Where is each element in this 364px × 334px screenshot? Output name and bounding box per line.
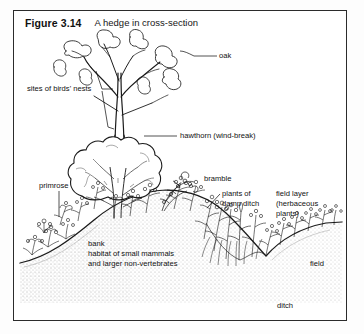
- label-hawthorn: hawthorn (wind-break): [180, 131, 256, 141]
- label-oak: oak: [219, 51, 231, 61]
- figure-root: Figure 3.14 A hedge in cross-section: [0, 0, 364, 334]
- label-field: field: [310, 259, 324, 269]
- label-bank-line1: bank: [88, 239, 104, 249]
- hedge-cross-section-drawing: [14, 11, 348, 322]
- leader-birds-nests-b: [102, 91, 114, 129]
- figure-frame: Figure 3.14 A hedge in cross-section: [13, 10, 347, 321]
- label-birds-nests: sites of birds' nests: [27, 84, 91, 94]
- label-primrose: primrose: [39, 181, 69, 191]
- leader-birds-nests-c: [96, 71, 102, 89]
- label-bramble: bramble: [204, 174, 231, 184]
- label-ditch: ditch: [277, 301, 293, 311]
- label-bank-line2: habitat of small mammals: [88, 249, 174, 259]
- label-field-layer-line3: plants): [276, 209, 299, 219]
- label-damp-ditch-line1: plants of: [222, 189, 251, 199]
- label-field-layer-line2: (herbaceous: [276, 199, 318, 209]
- label-damp-ditch-line2: damp ditch: [222, 199, 259, 209]
- label-bank-line3: and larger non-vertebrates: [88, 259, 178, 269]
- label-field-layer-line1: field layer: [276, 189, 309, 199]
